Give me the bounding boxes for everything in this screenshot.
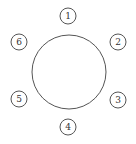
seat-label: 4: [65, 122, 71, 132]
seat-label: 1: [65, 11, 71, 21]
seat-label: 5: [16, 94, 22, 104]
seat-6: 6: [11, 34, 27, 50]
seat-label: 3: [115, 95, 121, 105]
seat-5: 5: [11, 91, 27, 107]
seat-4: 4: [60, 119, 76, 135]
seat-1: 1: [60, 8, 76, 24]
round-table-diagram: 1 2 3 4 5 6: [0, 0, 136, 144]
seat-3: 3: [110, 92, 126, 108]
table-circle: [32, 35, 106, 109]
seat-2: 2: [110, 34, 126, 50]
seat-label: 6: [16, 37, 22, 47]
seat-label: 2: [115, 37, 121, 47]
